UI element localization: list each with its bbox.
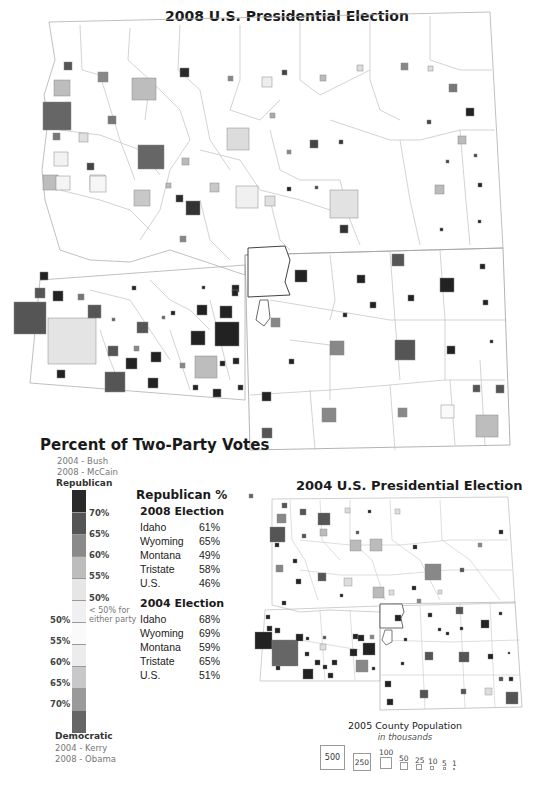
color-dem-70 (72, 711, 86, 733)
stats-2004-table: Idaho68% Wyoming69% Montana59% Tristate6… (140, 612, 220, 682)
tick-rep-50: 50% (89, 593, 109, 603)
stats-row: Wyoming65% (140, 534, 220, 548)
legend-under-note-2: either party (89, 614, 136, 625)
color-rep-60 (72, 535, 86, 557)
tick-rep-55: 55% (89, 571, 109, 581)
pop-label-100: 100 (379, 748, 393, 757)
stats-row: Idaho68% (140, 612, 220, 626)
color-dem-65 (72, 689, 86, 711)
pop-square-50 (400, 762, 408, 770)
pop-label-1: 1 (452, 759, 457, 768)
stats-row: U.S.51% (140, 668, 220, 682)
legend-rep-line1: 2004 - Bush (57, 456, 108, 467)
stats-row: Tristate65% (140, 654, 220, 668)
stats-row: U.S.46% (140, 576, 220, 590)
tick-dem-70: 70% (50, 699, 70, 709)
color-rep-55 (72, 557, 86, 579)
legend-color-bar (72, 490, 86, 733)
legend-dem-label: Democratic (55, 731, 113, 741)
stats-row: Montana59% (140, 640, 220, 654)
pop-square-250: 250 (353, 753, 371, 771)
legend-rep-line2: 2008 - McCain (57, 467, 118, 478)
color-rep-50 (72, 579, 86, 601)
stats-row: Idaho61% (140, 520, 220, 534)
stats-2008-table: Idaho61% Wyoming65% Montana49% Tristate5… (140, 520, 220, 590)
color-rep-65 (72, 513, 86, 535)
color-dem-60 (72, 667, 86, 689)
stats-heading: Republican % (136, 488, 227, 502)
legend-rep-label: Republican (56, 478, 112, 488)
stats-row: Wyoming69% (140, 626, 220, 640)
tick-rep-65: 65% (89, 529, 109, 539)
tick-dem-55: 55% (50, 636, 70, 646)
color-rep-70 (72, 490, 86, 513)
legend-dem-line1: 2004 - Kerry (55, 743, 107, 754)
color-dem-55 (72, 645, 86, 667)
pop-square-5 (443, 767, 446, 770)
legend-dem-line2: 2008 - Obama (55, 754, 116, 765)
tick-rep-60: 60% (89, 550, 109, 560)
pop-square-10 (430, 766, 434, 770)
stats-2004-label: 2004 Election (140, 597, 224, 610)
color-mid (72, 601, 86, 623)
legend-title: Percent of Two-Party Votes (40, 436, 269, 454)
tick-dem-65: 65% (50, 678, 70, 688)
stats-row: Montana49% (140, 548, 220, 562)
stats-row: Tristate58% (140, 562, 220, 576)
map-2004-title: 2004 U.S. Presidential Election (296, 478, 523, 493)
population-legend-title: 2005 County Population (340, 720, 470, 731)
pop-label-10: 10 (428, 757, 438, 766)
pop-square-100 (380, 757, 392, 769)
pop-square-1 (453, 768, 455, 770)
color-dem-50 (72, 623, 86, 645)
population-legend-subtitle: in thousands (340, 732, 470, 742)
tick-rep-70: 70% (89, 508, 109, 518)
pop-square-25 (416, 764, 422, 770)
stats-2008-label: 2008 Election (140, 505, 224, 518)
tick-dem-60: 60% (50, 657, 70, 667)
pop-square-500: 500 (320, 745, 345, 770)
tick-dem-50: 50% (50, 615, 70, 625)
